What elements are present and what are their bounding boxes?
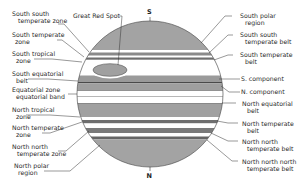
label-line2: region <box>240 19 276 26</box>
south-temperate-belt <box>70 58 230 60</box>
label-line1: North equatorial <box>242 100 293 107</box>
label-line2: zone <box>12 38 65 45</box>
label-north-temperate-belt: North temperatebelt <box>242 120 294 134</box>
label-line1: South polar <box>240 12 276 19</box>
north-north-temperate-belt <box>70 128 230 133</box>
label-equatorial-zone: Equatorial zoneequatorial band <box>12 86 65 100</box>
label-line1: South south <box>240 31 277 38</box>
label-north-north-north-temperate-belt: North north northtemperate belt <box>242 158 296 172</box>
label-line1: South south <box>12 10 49 17</box>
label-south-equatorial-belt: South equatorialbelt <box>12 70 63 84</box>
label-seb-n-component: N. component <box>241 88 285 95</box>
label-north-equatorial-belt: North equatorialbelt <box>242 100 293 114</box>
label-line2: belt <box>242 127 294 134</box>
label-line1: North north <box>242 138 278 145</box>
label-line2: temperate belt <box>242 145 293 152</box>
label-line2: equatorial band <box>12 93 65 100</box>
label-south-temperate-zone: South temperatezone <box>12 31 65 45</box>
label-north-temperate-zone: North temperatezone <box>12 124 64 138</box>
label-line1: North north north <box>242 158 296 165</box>
label-line2: temperate zone <box>12 150 66 157</box>
label-line2: zone <box>12 113 54 120</box>
north-temperate-belt <box>70 120 230 123</box>
great-red-spot-label: Great Red Spot <box>73 12 120 19</box>
label-line2: belt <box>242 107 293 114</box>
label-north-tropical-zone: North tropicalzone <box>12 106 54 120</box>
label-south-temperate-belt: South temperatebelt <box>240 51 293 65</box>
south-south-temperate-belt <box>70 53 230 56</box>
label-line1: North north <box>12 143 48 150</box>
label-line1: North temperate <box>242 120 294 127</box>
label-line1: S. component <box>241 75 284 82</box>
label-seb-s-component: S. component <box>241 75 284 82</box>
label-south-south-temperate-zone: South southtemperate zone <box>12 10 67 24</box>
label-line1: North polar <box>14 162 49 169</box>
label-line1: South temperate <box>12 31 65 38</box>
seb-n-component <box>70 83 230 90</box>
great-red-spot <box>93 64 127 77</box>
label-north-north-temperate-belt: North northtemperate belt <box>242 138 293 152</box>
jupiter-disk <box>70 15 230 175</box>
north-pole-label: N <box>147 172 152 180</box>
label-north-north-temperate-zone: North northtemperate zone <box>12 143 66 157</box>
label-line2: temperate belt <box>240 38 291 45</box>
label-line1: N. component <box>241 88 285 95</box>
label-line1: South tropical <box>12 50 55 57</box>
south-pole-label: S <box>147 8 152 16</box>
label-south-polar-region: South polarregion <box>240 12 276 26</box>
seb-s-component <box>70 76 230 83</box>
label-line2: zone <box>12 57 55 64</box>
label-north-polar-region: North polarregion <box>14 162 49 176</box>
label-line1: North tropical <box>12 106 54 113</box>
label-line2: zone <box>12 131 64 138</box>
label-line2: belt <box>240 58 293 65</box>
label-line1: North temperate <box>12 124 64 131</box>
label-line1: South temperate <box>240 51 293 58</box>
north-equatorial-belt <box>70 103 230 117</box>
label-line2: belt <box>12 77 63 84</box>
label-line2: region <box>14 169 49 176</box>
label-line2: temperate zone <box>12 17 67 24</box>
label-south-tropical-zone: South tropicalzone <box>12 50 55 64</box>
label-line1: Equatorial zone <box>12 86 60 93</box>
north-north-north-temperate-belt <box>70 137 230 140</box>
label-south-south-temperate-belt: South southtemperate belt <box>240 31 291 45</box>
label-line2: temperate belt <box>242 165 296 172</box>
label-line1: South equatorial <box>12 70 63 77</box>
equatorial-band <box>70 96 230 97</box>
